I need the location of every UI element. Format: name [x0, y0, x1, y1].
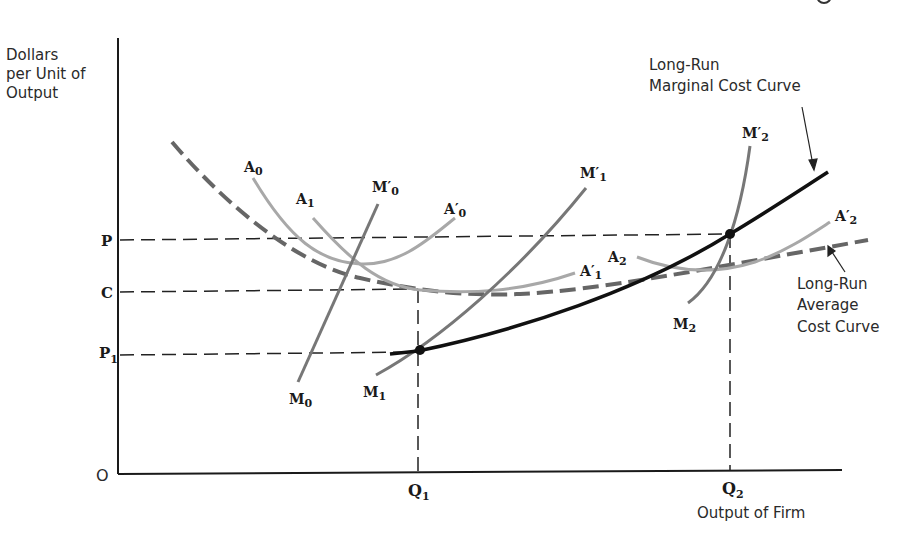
- lrmc-annotation: Long-Run Marginal Cost Curve: [649, 56, 801, 95]
- cost-curves-diagram: Dollars per Unit of Output P C P1 O Q1 Q…: [0, 0, 924, 543]
- y-tick-p1: P1: [99, 344, 118, 366]
- y-tick-p: P: [101, 232, 112, 250]
- lrac-curve: [172, 142, 868, 294]
- label-a1-prime: A′1: [579, 263, 602, 282]
- smc-2: [688, 146, 750, 303]
- point-q2-p: [725, 229, 735, 239]
- label-m2-prime: M′2: [742, 125, 769, 144]
- y-tick-c: C: [101, 284, 113, 302]
- smc-0: [298, 204, 378, 382]
- point-q1-p1: [415, 345, 425, 355]
- lrac-annotation: Long-Run Average Cost Curve: [797, 275, 879, 336]
- label-m2: M2: [673, 316, 696, 335]
- x-axis: [118, 470, 842, 474]
- origin-label: O: [96, 466, 109, 485]
- sac-0: [253, 178, 455, 264]
- label-a1: A1: [295, 191, 315, 210]
- label-m1-prime: M′1: [580, 165, 607, 184]
- short-run-average-curves: [253, 178, 830, 292]
- x-tick-q2: Q2: [722, 479, 744, 501]
- x-axis-label: Output of Firm: [697, 504, 805, 522]
- label-m1: M1: [363, 384, 386, 403]
- label-a0: A0: [243, 159, 263, 178]
- label-a2: A2: [607, 249, 627, 268]
- label-a2-prime: A′2: [834, 208, 857, 227]
- x-tick-q1: Q1: [408, 481, 430, 503]
- guide-lines: [120, 234, 730, 472]
- label-m0: M0: [289, 391, 313, 410]
- label-a0-prime: A′0: [443, 201, 467, 220]
- sac-1: [313, 218, 575, 292]
- smc-1: [376, 188, 586, 375]
- y-axis-label: Dollars per Unit of Output: [6, 46, 90, 102]
- label-m0-prime: M′0: [372, 179, 399, 198]
